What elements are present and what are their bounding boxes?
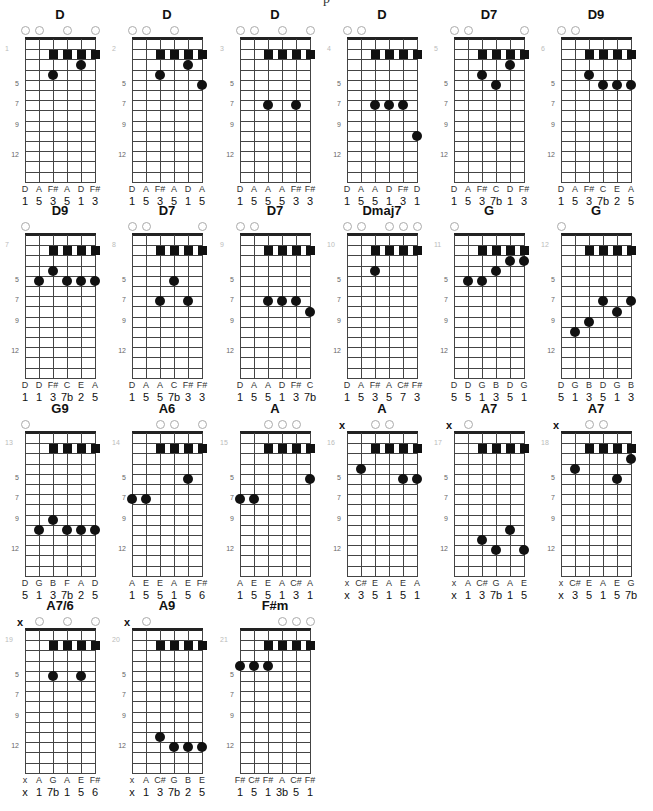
string-note-label: A [88,380,102,390]
fret-line [132,525,203,526]
string-line [268,235,269,378]
string-line [160,433,161,576]
barre-square-marker [478,50,487,59]
string-note-label: E [261,578,275,588]
fret-line [454,368,525,369]
string-line [454,433,455,576]
string-note-label: F# [368,380,382,390]
fret-line [347,494,418,495]
barre-square-marker [371,50,380,59]
fret-line [240,80,311,81]
string-note-label: C [60,380,74,390]
fret-line [454,347,525,348]
string-line [39,235,40,378]
barre-square-marker [399,246,408,255]
fret-number-label: 7 [218,494,234,501]
fret-line [240,368,311,369]
fret-line [240,576,311,577]
string-note-label: F# [261,775,275,785]
fret-line [561,368,632,369]
string-line [375,39,376,182]
fret-line [561,90,632,91]
string-line [202,39,203,182]
fret-line [240,317,311,318]
string-line [132,39,133,182]
fret-line [240,504,311,505]
fret-line [240,306,311,307]
string-note-label: D [503,380,517,390]
finger-dot-marker [34,276,44,286]
fret-number-label: 5 [218,276,234,283]
barre-square-marker [264,444,273,453]
fret-line [561,161,632,162]
open-string-icon [464,26,473,35]
string-note-label: F [60,578,74,588]
string-interval-label: 5 [74,786,88,798]
string-line [95,433,96,576]
open-string-icon [35,617,44,626]
string-note-label: D [74,184,88,194]
fret-line [132,671,203,672]
string-line [589,433,590,576]
open-string-icon [464,420,473,429]
string-line [25,235,26,378]
string-interval-label: x [447,589,461,601]
finger-dot-marker [612,307,622,317]
string-line [296,235,297,378]
string-interval-label: 3b [275,786,289,798]
string-note-label: D [554,380,568,390]
fret-number-label: 9 [325,121,341,128]
barre-square-marker [184,50,193,59]
chord-name: A9 [117,598,217,613]
finger-dot-marker [412,474,422,484]
fret-number-label: 5 [3,671,19,678]
string-line [631,39,632,182]
open-string-icon [385,222,394,231]
string-interval-label: 1 [303,786,317,798]
string-line [361,39,362,182]
finger-dot-marker [263,661,273,671]
finger-dot-marker [76,60,86,70]
string-note-label: A [261,184,275,194]
string-note-label: F# [303,775,317,785]
string-note-label: C# [354,578,368,588]
chord-name: G [439,203,539,218]
fret-line [454,337,525,338]
finger-dot-marker [491,545,501,555]
fret-line [25,131,96,132]
barre-square-marker [292,50,301,59]
finger-dot-marker [155,296,165,306]
chart-number: 8 [112,241,116,248]
fret-line [240,742,311,743]
string-note-label: A [167,578,181,588]
open-string-icon [371,420,380,429]
chart-number: 15 [220,439,228,446]
fret-line [454,515,525,516]
barre-square-marker [170,246,179,255]
string-note-label: x [125,775,139,785]
chord-name: D [332,7,432,22]
fret-line [347,545,418,546]
string-line [468,39,469,182]
nut-line [240,628,311,631]
finger-dot-marker [141,494,151,504]
string-line [67,39,68,182]
fret-number-label: 12 [218,347,234,354]
string-note-label: F# [195,380,209,390]
string-note-label: D [410,184,424,194]
string-line [174,39,175,182]
string-interval-label: 1 [139,786,153,798]
string-line [417,39,418,182]
string-line [53,630,54,773]
barre-square-marker [198,246,207,255]
fret-line [132,266,203,267]
fret-line [347,555,418,556]
open-string-icon [91,617,100,626]
fret-line [132,545,203,546]
fret-line [132,691,203,692]
fret-line [347,276,418,277]
barre-square-marker [478,444,487,453]
fret-line [347,255,418,256]
fret-number-label: 7 [539,296,555,303]
string-line [496,39,497,182]
